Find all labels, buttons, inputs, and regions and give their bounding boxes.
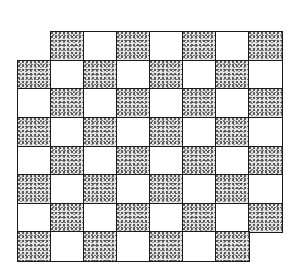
shaded-square	[50, 203, 85, 233]
shaded-square	[116, 31, 151, 61]
white-square	[83, 203, 118, 233]
white-square	[17, 88, 52, 118]
white-square	[116, 174, 151, 204]
shaded-square	[215, 117, 250, 147]
white-square	[182, 174, 217, 204]
shaded-square	[248, 88, 283, 118]
white-square	[248, 117, 283, 147]
shaded-square	[149, 117, 184, 147]
shaded-square	[17, 60, 52, 90]
white-square	[17, 203, 52, 233]
white-square	[215, 31, 250, 61]
white-square	[149, 31, 184, 61]
white-square	[116, 231, 151, 261]
shaded-square	[182, 88, 217, 118]
white-square	[116, 60, 151, 90]
white-square	[182, 231, 217, 261]
white-square	[50, 231, 85, 261]
shaded-square	[83, 60, 118, 90]
white-square	[182, 60, 217, 90]
shaded-square	[116, 146, 151, 176]
white-square	[83, 88, 118, 118]
shaded-square	[17, 174, 52, 204]
shaded-square	[17, 231, 52, 261]
shaded-square	[248, 31, 283, 61]
white-square	[149, 203, 184, 233]
shaded-square	[50, 146, 85, 176]
white-square	[116, 117, 151, 147]
white-square	[215, 203, 250, 233]
shaded-square	[248, 146, 283, 176]
white-square	[50, 60, 85, 90]
shaded-square	[50, 31, 85, 61]
shaded-square	[83, 231, 118, 261]
shaded-square	[116, 88, 151, 118]
white-square	[50, 117, 85, 147]
shaded-square	[248, 203, 283, 233]
white-square	[182, 117, 217, 147]
shaded-square	[149, 231, 184, 261]
shaded-square	[50, 88, 85, 118]
shaded-square	[182, 203, 217, 233]
shaded-square	[215, 174, 250, 204]
checkerboard-diagram	[0, 0, 300, 264]
shaded-square	[149, 60, 184, 90]
shaded-square	[149, 174, 184, 204]
white-square	[83, 31, 118, 61]
shaded-square	[83, 174, 118, 204]
white-square	[215, 146, 250, 176]
white-square	[149, 146, 184, 176]
shaded-square	[116, 203, 151, 233]
shaded-square	[182, 146, 217, 176]
white-square	[248, 174, 283, 204]
shaded-square	[215, 60, 250, 90]
white-square	[50, 174, 85, 204]
white-square	[215, 88, 250, 118]
shaded-square	[83, 117, 118, 147]
white-square	[83, 146, 118, 176]
white-square	[248, 60, 283, 90]
shaded-square	[17, 117, 52, 147]
white-square	[17, 146, 52, 176]
shaded-square	[182, 31, 217, 61]
shaded-square	[215, 231, 250, 261]
white-square	[149, 88, 184, 118]
